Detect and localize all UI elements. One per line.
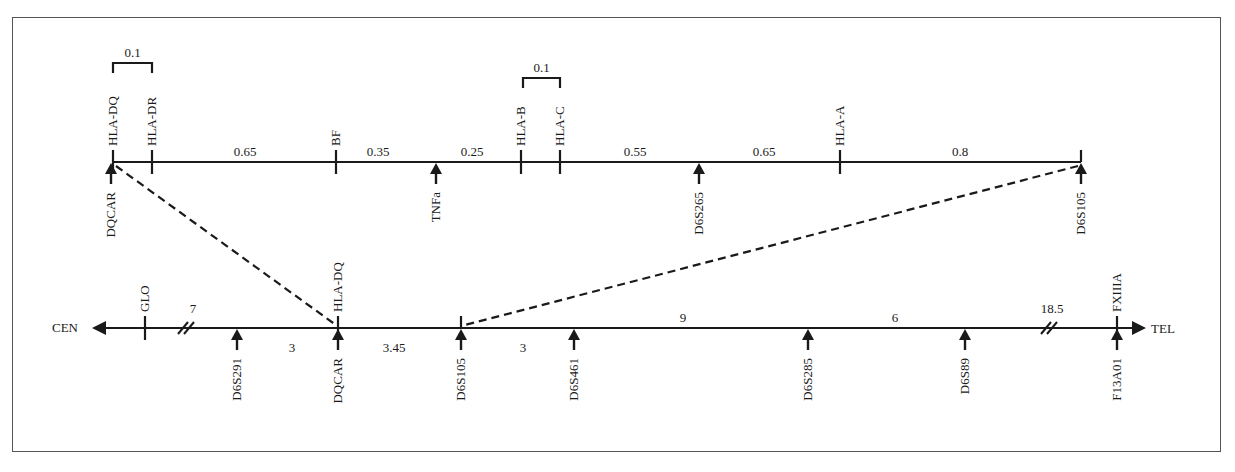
bottom-map: CEN TEL GLOHLA-DQFXIIIA D6S291DQCARD6S10… [52, 262, 1175, 404]
marker-label: HLA-DQ [330, 262, 345, 312]
marker-label: DQCAR [330, 358, 345, 404]
top-brackets: 0.10.1 [113, 45, 560, 88]
up-arrow-icon [231, 329, 243, 340]
marker-label: D6S105 [1073, 192, 1088, 235]
marker-bf: BF [328, 130, 343, 174]
distance-bracket: 0.1 [113, 45, 152, 73]
marker-d6s89: D6S89 [957, 329, 972, 394]
marker-label: HLA-DR [144, 97, 159, 146]
marker-label: TNFa [428, 192, 443, 223]
marker-label: GLO [137, 285, 152, 312]
distance-label: 18.5 [1041, 301, 1064, 316]
marker-hla-c: HLA-C [552, 106, 567, 174]
marker-dqcar: DQCAR [103, 163, 118, 238]
marker-d6s461: D6S461 [566, 329, 581, 401]
distance-label: 6 [892, 310, 899, 325]
marker-label: F13A01 [1109, 358, 1124, 401]
marker-fxiiia: FXIIIA [1109, 272, 1124, 340]
up-arrow-icon [105, 163, 117, 174]
up-arrow-icon [693, 163, 705, 174]
distance-label: 0.65 [234, 144, 257, 159]
distance-label: 0.25 [461, 144, 484, 159]
up-arrow-icon [455, 329, 467, 340]
marker-label: D6S89 [957, 358, 972, 394]
cen-label: CEN [52, 320, 79, 335]
marker-d6s291: D6S291 [229, 329, 244, 401]
up-arrow-icon [430, 163, 442, 174]
connector-d6s105 [465, 166, 1078, 325]
dashed-connectors [116, 166, 1078, 325]
marker-d6s265: D6S265 [691, 163, 706, 235]
marker-d6s285: D6S285 [800, 329, 815, 401]
up-arrow-icon [1111, 329, 1123, 340]
marker-label: HLA-C [552, 106, 567, 146]
marker-label: HLA-A [832, 105, 847, 146]
marker-label: HLA-DQ [105, 96, 120, 146]
marker-label: BF [328, 130, 343, 146]
marker-label: D6S285 [800, 358, 815, 401]
distance-label: 0.8 [952, 144, 968, 159]
distance-label: 3 [289, 340, 296, 355]
up-arrow-icon [802, 329, 814, 340]
marker-label: FXIIIA [1109, 272, 1124, 312]
up-arrow-icon [959, 329, 971, 340]
distance-label: 7 [190, 301, 197, 316]
bottom-markers-below: D6S291DQCARD6S105D6S461D6S285D6S89F13A01 [229, 316, 1124, 404]
distance-label: 3 [520, 340, 527, 355]
marker-hla-b: HLA-B [513, 106, 528, 174]
distance-label: 9 [680, 310, 687, 325]
cen-arrow-icon [92, 321, 106, 335]
distance-label: 3.45 [383, 340, 406, 355]
up-arrow-icon [1075, 163, 1087, 174]
marker-hla-a: HLA-A [832, 105, 847, 174]
marker-label: D6S291 [229, 358, 244, 401]
genetic-linkage-map: HLA-DQHLA-DRBFHLA-BHLA-CHLA-A DQCARTNFaD… [0, 0, 1235, 472]
bracket-line [523, 78, 560, 88]
up-arrow-icon [332, 329, 344, 340]
marker-label: DQCAR [103, 192, 118, 238]
bracket-line [113, 63, 152, 73]
top-map: HLA-DQHLA-DRBFHLA-BHLA-CHLA-A DQCARTNFaD… [103, 45, 1088, 238]
top-markers-below: DQCARTNFaD6S265D6S105 [103, 150, 1088, 238]
marker-glo: GLO [137, 285, 152, 340]
marker-label: D6S461 [566, 358, 581, 401]
tel-arrow-icon [1132, 321, 1146, 335]
marker-label: D6S105 [453, 358, 468, 401]
bracket-label: 0.1 [124, 45, 140, 60]
marker-dqcar: DQCAR [330, 329, 345, 404]
distance-label: 0.65 [753, 144, 776, 159]
marker-tnfa: TNFa [428, 163, 443, 222]
distance-bracket: 0.1 [523, 60, 560, 88]
distance-label: 0.35 [367, 144, 390, 159]
marker-label: HLA-B [513, 106, 528, 146]
bracket-label: 0.1 [533, 60, 549, 75]
top-distances: 0.650.350.250.550.650.8 [234, 144, 969, 159]
tel-label: TEL [1151, 321, 1175, 336]
up-arrow-icon [568, 329, 580, 340]
distance-label: 0.55 [624, 144, 647, 159]
marker-f13a01: F13A01 [1109, 329, 1124, 401]
marker-label: D6S265 [691, 192, 706, 235]
